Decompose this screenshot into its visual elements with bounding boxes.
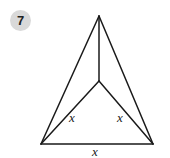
- geometry-figure: x x x: [0, 0, 170, 158]
- label-bottom-segment: x: [91, 144, 98, 158]
- edge-apex-to-bottom-right: [99, 16, 153, 144]
- label-left-segment: x: [68, 110, 75, 125]
- label-right-segment: x: [116, 110, 123, 125]
- segment-interior-to-bottom-right: [99, 81, 153, 144]
